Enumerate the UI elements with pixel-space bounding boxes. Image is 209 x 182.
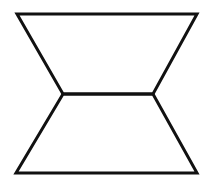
upper-trapezoid xyxy=(17,14,197,94)
hourglass-figure xyxy=(0,0,209,182)
lower-trapezoid xyxy=(16,94,197,173)
diagram-canvas xyxy=(0,0,209,182)
